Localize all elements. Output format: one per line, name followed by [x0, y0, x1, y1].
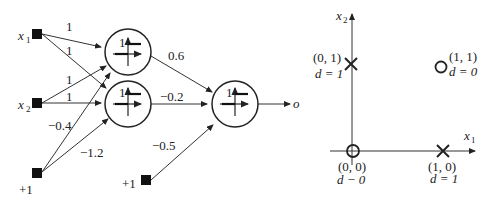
svg-text:d = 1: d = 1 — [315, 66, 343, 81]
svg-text:(0, 1): (0, 1) — [313, 50, 341, 65]
svg-text:x: x — [17, 97, 24, 112]
svg-text:d = 0: d = 0 — [449, 64, 478, 79]
svg-text:1: 1 — [471, 135, 476, 145]
svg-text:2: 2 — [26, 104, 31, 114]
hidden-neuron-1: 1 — [105, 29, 151, 75]
input-x2: x 2 — [17, 97, 42, 114]
svg-text:d − 0: d − 0 — [337, 172, 366, 187]
svg-text:2: 2 — [343, 15, 348, 25]
output-label: o — [293, 96, 300, 111]
hidden-neuron-2: 1 — [105, 81, 151, 127]
svg-text:1: 1 — [119, 85, 126, 100]
svg-text:1: 1 — [226, 85, 233, 100]
output-bias: +1 — [122, 175, 151, 191]
svg-text:−0.5: −0.5 — [152, 138, 176, 153]
svg-text:0.6: 0.6 — [168, 48, 185, 63]
point-1-1: (1, 1) d = 0 — [436, 49, 478, 79]
svg-text:d = 1: d = 1 — [430, 171, 458, 186]
output-neuron: 1 — [212, 81, 258, 127]
svg-text:x: x — [17, 28, 24, 43]
xor-plot: x 2 x 1 (0, 0) d − 0 (0, 1) d = 1 (1, 0)… — [313, 8, 478, 187]
svg-text:−1.2: −1.2 — [80, 145, 104, 160]
input-bias: +1 — [19, 168, 42, 197]
svg-text:+1: +1 — [122, 176, 136, 191]
svg-text:1: 1 — [66, 89, 73, 104]
svg-text:1: 1 — [66, 72, 73, 87]
svg-text:x: x — [335, 8, 342, 23]
input-x1: x 1 — [17, 28, 42, 45]
svg-text:(1, 1): (1, 1) — [449, 49, 477, 64]
point-0-1: (0, 1) d = 1 — [313, 50, 357, 81]
svg-text:1: 1 — [119, 35, 126, 50]
svg-text:1: 1 — [66, 19, 73, 34]
svg-text:−0.2: −0.2 — [160, 89, 184, 104]
svg-text:1: 1 — [26, 35, 31, 45]
xor-network-diagram: x 1 x 2 +1 +1 1 1 1 1 −0.4 −1.2 0.6 −0.2 — [0, 0, 494, 200]
svg-text:−0.4: −0.4 — [48, 118, 72, 133]
svg-text:x: x — [463, 128, 470, 143]
svg-text:1: 1 — [66, 43, 73, 58]
svg-text:+1: +1 — [19, 182, 33, 197]
